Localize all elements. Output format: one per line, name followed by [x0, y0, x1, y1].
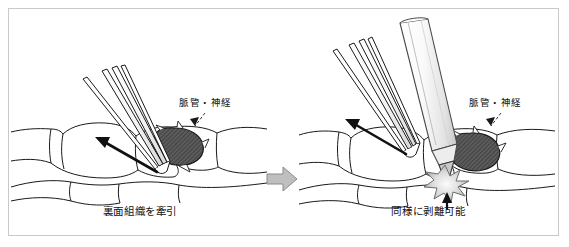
vessel-nerve-label: 脈管・神経 [179, 95, 232, 109]
panel-right: 脈管・神経 同様に剥離可能 [297, 9, 560, 237]
transition-arrow [265, 164, 299, 194]
loose-connective-tissue [299, 127, 555, 208]
right-arrow-icon [265, 164, 299, 194]
vessel-nerve-label: 脈管・神経 [469, 95, 522, 109]
figure-frame: 脈管・神経 裏面組織を牽引 [8, 8, 559, 236]
forceps [83, 65, 170, 173]
forceps [333, 37, 420, 157]
loose-connective-tissue [11, 123, 267, 205]
panel-right-caption: 同様に剥離可能 [297, 203, 560, 218]
leader-line-arrow-icon [486, 113, 501, 126]
figure-root: 脈管・神経 裏面組織を牽引 [0, 0, 569, 247]
panel-left: 脈管・神経 裏面組織を牽引 [9, 9, 271, 237]
panel-left-caption: 裏面組織を牽引 [9, 203, 271, 218]
leader-line-arrow-icon [190, 113, 205, 126]
